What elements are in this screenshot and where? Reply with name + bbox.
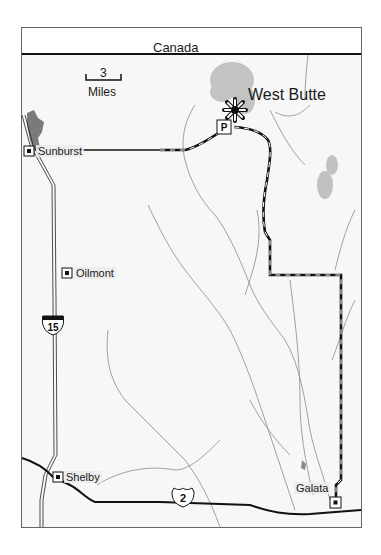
canada-label: Canada bbox=[153, 40, 199, 55]
town-label-oilmont: Oilmont bbox=[74, 267, 116, 279]
map-canvas: 15 2 P bbox=[0, 0, 381, 555]
town-marker-sunburst bbox=[24, 146, 34, 156]
town-marker-shelby bbox=[53, 472, 63, 482]
town-marker-galata bbox=[330, 497, 341, 508]
west-butte-label: West Butte bbox=[248, 86, 326, 104]
town-label-galata: Galata bbox=[294, 482, 330, 494]
terrain-shading bbox=[22, 55, 361, 527]
town-label-shelby: Shelby bbox=[64, 471, 102, 483]
svg-text:P: P bbox=[221, 122, 228, 133]
town-label-sunburst: Sunburst bbox=[36, 145, 84, 157]
town-marker-oilmont bbox=[62, 268, 72, 278]
peak-star-icon bbox=[224, 99, 246, 121]
scale-unit: Miles bbox=[88, 85, 116, 99]
svg-text:15: 15 bbox=[47, 322, 59, 333]
svg-text:2: 2 bbox=[180, 492, 186, 504]
parking-icon: P bbox=[217, 120, 231, 134]
scale-value: 3 bbox=[100, 66, 107, 80]
